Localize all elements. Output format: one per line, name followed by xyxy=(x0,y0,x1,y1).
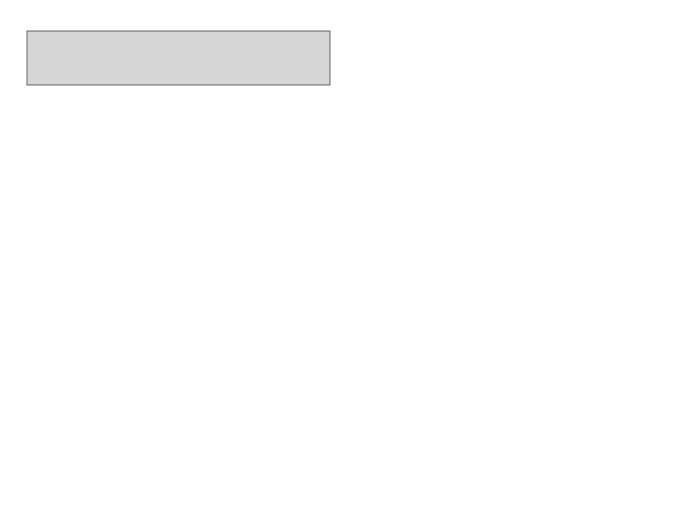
home-districts-map xyxy=(0,0,695,507)
